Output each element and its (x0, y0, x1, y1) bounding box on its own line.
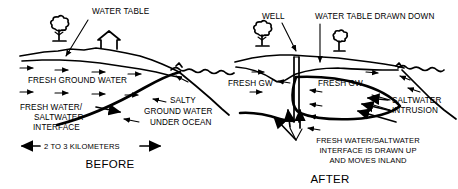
label-salty-line2: GROUND WATER (144, 107, 213, 116)
label-interface-drawn-up-line1: FRESH WATER/SALTWATER (316, 136, 420, 145)
diagram-root: WATER TABLE FRESH GROUND WATER FRESH WAT… (0, 0, 458, 189)
label-fresh-ground-water: FRESH GROUND WATER (28, 76, 127, 85)
label-interface-line3: INTERFACE (33, 123, 80, 132)
caption-before: BEFORE (85, 158, 134, 170)
label-salty-line1: SALTY (170, 96, 196, 105)
label-well: WELL (262, 12, 285, 21)
label-salty-line3: UNDER OCEAN (150, 118, 212, 127)
label-interface-line2: SALTWATER (34, 113, 83, 122)
caption-after: AFTER (310, 173, 349, 185)
label-water-table: WATER TABLE (92, 7, 150, 16)
label-fresh-gw-left: FRESH GW (228, 79, 273, 88)
label-saltwater-intrusion-line2: INTRUSION (392, 106, 438, 115)
label-interface-drawn-up-line2: INTERFACE IS DRAWN UP (319, 146, 416, 155)
saltwater-intrusion-diagram: WATER TABLE FRESH GROUND WATER FRESH WAT… (0, 0, 458, 189)
label-interface-line1: FRESH WATER/ (20, 103, 83, 112)
label-water-table-drawn-down: WATER TABLE DRAWN DOWN (315, 12, 434, 21)
label-interface-drawn-up-line3: AND MOVES INLAND (329, 156, 407, 165)
label-saltwater-intrusion-line1: SALTWATER (392, 96, 441, 105)
label-fresh-gw-right: FRESH GW (318, 79, 363, 88)
label-scale: 2 TO 3 KILOMETERS (44, 142, 120, 151)
